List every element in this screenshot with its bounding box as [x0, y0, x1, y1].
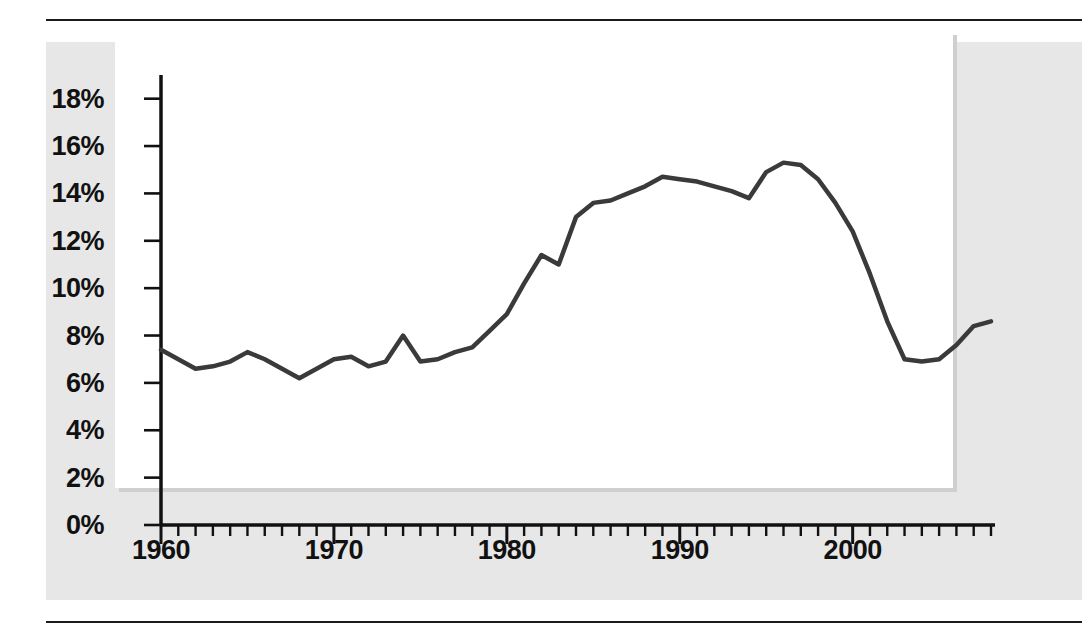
figure-container: 0%2%4%6%8%10%12%14%16%18% 19601970198019…: [0, 0, 1082, 631]
x-axis-label: 1960: [132, 535, 190, 566]
x-axis-label: 1980: [478, 535, 536, 566]
x-axis-tick-labels: 19601970198019902000: [0, 0, 1082, 631]
x-axis-label: 1970: [305, 535, 363, 566]
x-axis-label: 1990: [651, 535, 709, 566]
x-axis-label: 2000: [824, 535, 882, 566]
